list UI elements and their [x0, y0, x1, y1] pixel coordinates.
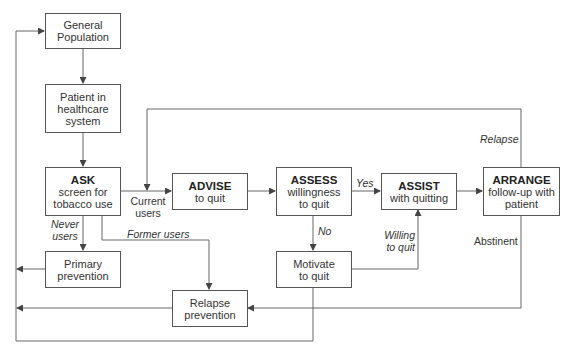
node-motivate: Motivate to quit — [276, 251, 352, 288]
node-patient-in-healthcare: Patient in healthcare system — [45, 84, 121, 133]
node-title: ASK — [71, 174, 95, 186]
node-text: follow-up with — [488, 186, 555, 198]
node-text: Patient in — [60, 91, 106, 103]
node-text: prevention — [57, 270, 108, 282]
edge-label-no: No — [318, 225, 331, 237]
node-text: patient — [505, 198, 538, 210]
edge-label-relapse: Relapse — [480, 133, 519, 145]
label-line: users — [126, 207, 170, 219]
edge-label-yes: Yes — [356, 177, 374, 189]
label-line: to quit — [381, 241, 415, 253]
node-title: ARRANGE — [492, 174, 550, 186]
node-text: prevention — [184, 309, 235, 321]
label-line: Current — [126, 195, 170, 207]
node-primary-prevention: Primary prevention — [45, 251, 121, 288]
node-text: Motivate — [293, 258, 335, 270]
edge-label-current-users: Current users — [126, 195, 170, 219]
node-advise: ADVISE to quit — [172, 173, 248, 210]
node-title: ADVISE — [189, 180, 232, 192]
edge-label-willing-to-quit: Willing to quit — [381, 229, 415, 253]
label-line: Willing — [381, 229, 415, 241]
node-text: system — [66, 115, 101, 127]
node-text: Primary — [64, 258, 102, 270]
node-text: healthcare — [57, 103, 108, 115]
node-assist: ASSIST with quitting — [381, 173, 457, 210]
node-assess: ASSESS willingness to quit — [276, 167, 352, 216]
node-text: Relapse — [190, 297, 230, 309]
node-text: to quit — [195, 192, 225, 204]
node-ask: ASK screen for tobacco use — [45, 167, 121, 216]
node-title: ASSESS — [291, 174, 338, 186]
edge-label-never-users: Never users — [48, 218, 82, 242]
edge-label-former-users: Former users — [127, 228, 189, 240]
node-text: General — [63, 19, 102, 31]
node-title: ASSIST — [398, 180, 440, 192]
label-line: users — [48, 230, 82, 242]
label-line: Never — [48, 218, 82, 230]
node-text: with quitting — [390, 192, 448, 204]
node-text: willingness — [287, 186, 340, 198]
node-text: tobacco use — [53, 198, 112, 210]
edge-label-abstinent: Abstinent — [474, 235, 518, 247]
node-text: Population — [57, 31, 109, 43]
node-relapse-prevention: Relapse prevention — [172, 290, 248, 327]
node-text: screen for — [59, 186, 108, 198]
node-text: to quit — [299, 198, 329, 210]
node-general-population: General Population — [45, 13, 121, 49]
node-text: to quit — [299, 270, 329, 282]
node-arrange: ARRANGE follow-up with patient — [483, 167, 560, 216]
